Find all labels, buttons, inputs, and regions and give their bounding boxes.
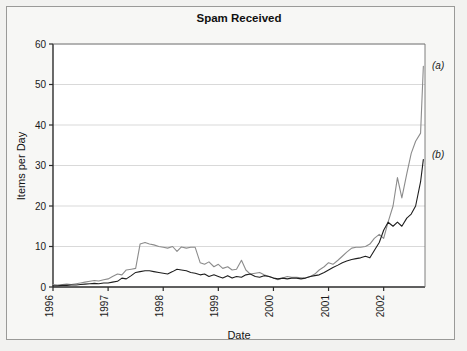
series-b-annotation: (b) bbox=[432, 149, 444, 160]
chart-title: Spam Received bbox=[196, 12, 281, 24]
x-axis-tick-label: 1996 bbox=[44, 295, 55, 318]
y-axis-tick-labels: 0102030405060 bbox=[35, 39, 47, 293]
y-axis-title: Items per Day bbox=[15, 131, 27, 200]
x-axis-tick-label: 1998 bbox=[154, 295, 165, 318]
x-axis-tick-label: 2002 bbox=[375, 295, 386, 318]
y-axis-tick-label: 30 bbox=[35, 160, 47, 171]
y-axis-tick-label: 10 bbox=[35, 241, 47, 252]
series-a-annotation: (a) bbox=[432, 60, 444, 71]
x-axis-tick-label: 1999 bbox=[209, 295, 220, 318]
figure-root: 0102030405060 19961997199819992000200120… bbox=[0, 0, 467, 351]
x-axis-tick-label: 2001 bbox=[320, 295, 331, 318]
x-axis-title: Date bbox=[227, 329, 250, 341]
y-axis-tick-label: 0 bbox=[40, 282, 46, 293]
spam-received-line-chart: 0102030405060 19961997199819992000200120… bbox=[0, 0, 467, 351]
x-axis-tick-label: 1997 bbox=[99, 295, 110, 318]
y-axis-tick-label: 40 bbox=[35, 120, 47, 131]
y-axis-tick-label: 60 bbox=[35, 39, 47, 50]
x-axis-tick-labels: 1996199719981999200020012002 bbox=[44, 295, 386, 318]
y-axis-tick-label: 50 bbox=[35, 79, 47, 90]
x-axis-tick-label: 2000 bbox=[264, 295, 275, 318]
y-axis-tick-label: 20 bbox=[35, 201, 47, 212]
